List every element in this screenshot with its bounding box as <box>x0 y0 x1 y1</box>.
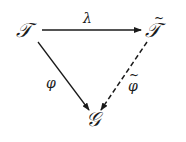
arrow-phi-tilde <box>101 42 147 110</box>
node-F-tilde-accent: ~ <box>154 11 164 25</box>
label-phi: φ <box>46 75 56 91</box>
label-lambda: λ <box>82 10 92 26</box>
commutative-diagram: 𝒯 𝒯 ~ 𝒢 λ φ φ ~ <box>0 0 186 142</box>
node-G: 𝒢 <box>86 107 104 131</box>
label-phi-tilde-accent: ~ <box>129 68 139 82</box>
node-F: 𝒯 <box>16 18 38 42</box>
